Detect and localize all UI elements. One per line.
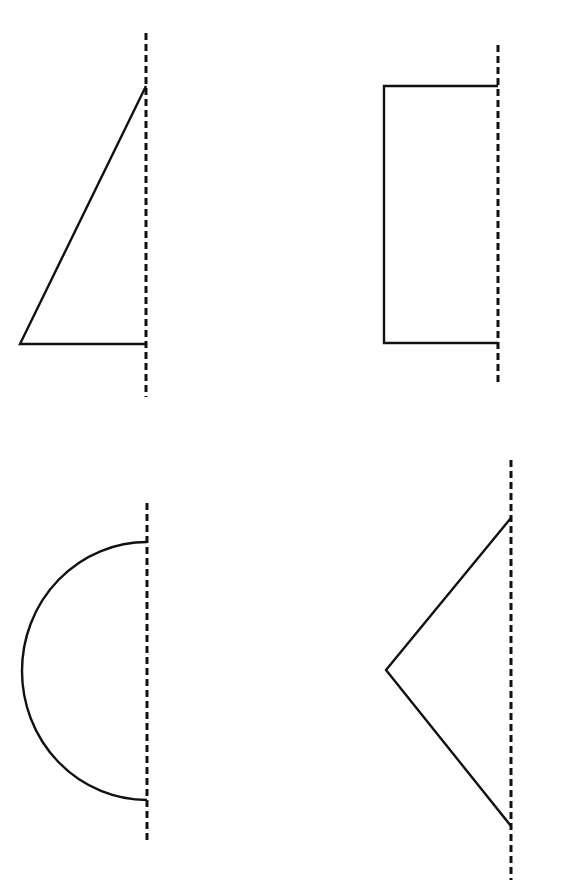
half-rhombus-shape [386,518,511,826]
figure-half-triangle [20,33,146,397]
symmetry-diagram [0,0,570,895]
figure-half-rhombus [386,460,511,880]
figure-half-rectangle [384,45,498,385]
half-triangle-shape [20,86,146,344]
figure-half-circle [22,503,147,843]
semicircle-shape [22,542,147,800]
half-rectangle-shape [384,86,498,343]
